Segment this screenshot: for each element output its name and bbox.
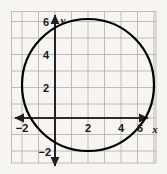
y-tick-label-2: 2 xyxy=(43,82,49,94)
x-tick-label-neg2: −2 xyxy=(16,122,29,134)
graph-svg: −2 2 4 6 6 4 2 −2 x y xyxy=(0,0,167,174)
x-tick-label-2: 2 xyxy=(85,122,91,134)
y-axis-label: y xyxy=(59,14,66,26)
x-tick-label-6: 6 xyxy=(137,122,143,134)
x-tick-label-4: 4 xyxy=(118,122,125,134)
plot-background xyxy=(11,11,156,163)
x-axis-label: x xyxy=(151,123,158,135)
y-tick-label-6: 6 xyxy=(43,16,49,28)
y-tick-label-4: 4 xyxy=(43,49,50,61)
y-tick-label-neg2: −2 xyxy=(38,146,51,158)
coordinate-plane-figure: −2 2 4 6 6 4 2 −2 x y xyxy=(0,0,167,174)
